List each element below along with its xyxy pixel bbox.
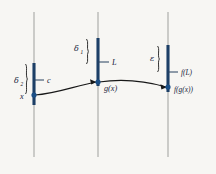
gx-point-dot — [95, 79, 100, 84]
x-point-label: x — [19, 92, 24, 101]
gx-point-label: g(x) — [104, 84, 117, 93]
epsilon-brace-icon — [158, 46, 160, 72]
delta2-subscript: 2 — [21, 81, 24, 87]
fL-tick-label: f(L) — [181, 68, 193, 77]
x-point-dot — [31, 92, 36, 97]
fgx-point-label: f(g(x)) — [174, 85, 193, 94]
delta2-brace-icon — [26, 64, 28, 94]
delta1-brace-icon — [87, 39, 89, 64]
epsilon-label: ε — [150, 54, 154, 63]
figure-canvas: δ 2 δ 1 ε x g(x) f(g(x)) c L f(L) — [0, 0, 216, 174]
fgx-point-dot — [165, 84, 170, 89]
curve-segment-g — [35, 82, 96, 95]
c-tick-label: c — [47, 76, 51, 85]
L-tick-label: L — [111, 58, 117, 67]
delta2-label: δ — [14, 76, 19, 85]
delta1-subscript: 1 — [81, 49, 84, 55]
delta1-label: δ — [74, 44, 79, 53]
